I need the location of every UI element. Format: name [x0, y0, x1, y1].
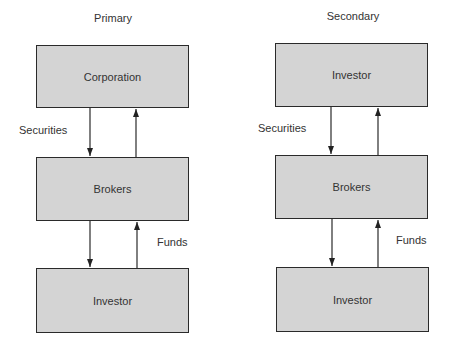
flow-arrows — [0, 0, 456, 349]
